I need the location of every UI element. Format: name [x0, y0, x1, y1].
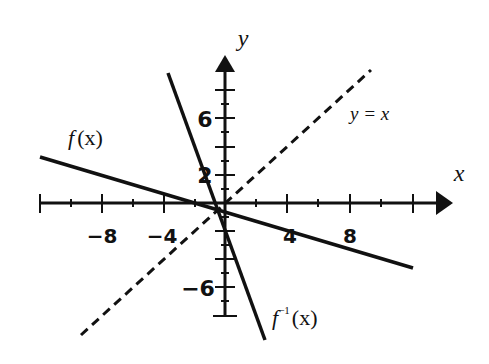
x-tick-label: 8 [343, 224, 357, 248]
x-axis-label: x [453, 160, 465, 186]
x-tick-label: 4 [283, 224, 297, 248]
y-axis-label: y [236, 25, 249, 51]
f-inverse-label: f−1(x) [272, 304, 318, 330]
chart-canvas: −8 −4 4 8 x 6 2 −6 y [0, 0, 489, 364]
y-axis-arrow-icon [215, 55, 235, 72]
x-tick-label: −4 [147, 224, 178, 248]
x-tick-label: −8 [87, 224, 118, 248]
x-axis: −8 −4 4 8 x [40, 160, 465, 248]
f-of-x-label: f(x) [68, 125, 103, 150]
x-axis-arrow-icon [436, 191, 453, 215]
y-tick-label: 6 [197, 107, 212, 132]
y-equals-x-label: y = x [348, 103, 390, 124]
y-axis: 6 2 −6 y [181, 25, 249, 316]
y-tick-label: −6 [181, 276, 215, 301]
